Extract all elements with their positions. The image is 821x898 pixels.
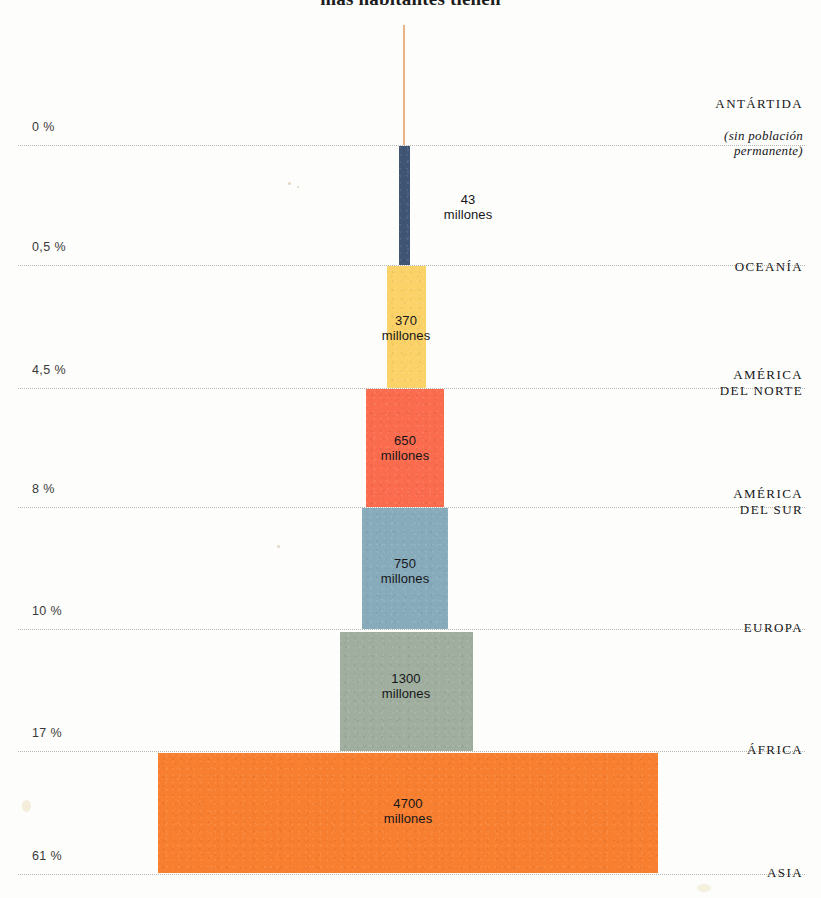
continent-name: AMÉRICA DEL SUR xyxy=(733,486,803,517)
bar-value-number: 4700 xyxy=(358,796,458,811)
continent-label-europa: EUROPA xyxy=(725,604,803,652)
continent-name: ÁFRICA xyxy=(747,742,803,757)
bar-value-europa: 750 millones xyxy=(355,556,455,587)
continent-label-antartida: ANTÁRTIDA (sin población permanente) xyxy=(697,80,803,191)
bar-value-unit: millones xyxy=(355,448,455,463)
axis-label-45pct: 4,5 % xyxy=(32,363,66,377)
antarctica-stem-line xyxy=(403,25,405,145)
bar-value-unit: millones xyxy=(356,686,456,701)
bar-value-number: 650 xyxy=(355,433,455,448)
bar-oceania[interactable] xyxy=(399,146,410,265)
population-pyramid-chart: más habitantes tienen 0 % 0,5 % 4,5 % 8 … xyxy=(0,0,821,898)
bar-value-africa: 1300 millones xyxy=(356,671,456,702)
paper-speck xyxy=(22,800,31,812)
continent-name: AMÉRICA DEL NORTE xyxy=(720,367,803,398)
axis-label-17pct: 17 % xyxy=(32,726,62,740)
continent-label-oceania: OCEANÍA xyxy=(716,243,803,291)
paper-speck xyxy=(297,186,299,188)
continent-name: EUROPA xyxy=(744,620,803,635)
continent-name: ANTÁRTIDA xyxy=(715,96,803,111)
bar-value-asia: 4700 millones xyxy=(358,796,458,827)
bar-value-america-del-norte: 370 millones xyxy=(356,313,456,344)
paper-speck xyxy=(277,545,280,548)
page-title: más habitantes tienen xyxy=(0,0,821,10)
continent-label-america-del-sur: AMÉRICA DEL SUR xyxy=(715,470,803,533)
gridline-10pct xyxy=(18,629,805,630)
continent-name: OCEANÍA xyxy=(735,259,803,274)
axis-label-0pct: 0 % xyxy=(32,120,55,134)
gridline-61pct xyxy=(18,874,805,875)
bar-value-number: 43 xyxy=(418,192,518,207)
paper-speck xyxy=(288,182,291,185)
bar-texture xyxy=(399,146,410,265)
bar-value-unit: millones xyxy=(418,207,518,222)
axis-label-61pct: 61 % xyxy=(32,849,62,863)
bar-value-number: 370 xyxy=(356,313,456,328)
bar-value-unit: millones xyxy=(356,328,456,343)
continent-label-america-del-norte: AMÉRICA DEL NORTE xyxy=(715,351,803,414)
bar-value-unit: millones xyxy=(355,571,455,586)
bar-value-unit: millones xyxy=(358,811,458,826)
bar-value-number: 750 xyxy=(355,556,455,571)
continent-label-africa: ÁFRICA xyxy=(728,726,803,774)
axis-label-10pct: 10 % xyxy=(32,604,62,618)
bar-value-america-del-sur: 650 millones xyxy=(355,433,455,464)
paper-speck xyxy=(697,884,711,892)
continent-label-asia: ASIA xyxy=(749,849,803,897)
gridline-17pct xyxy=(18,751,805,752)
axis-label-05pct: 0,5 % xyxy=(32,240,66,254)
bar-value-oceania: 43 millones xyxy=(418,192,518,223)
gridline-0pct xyxy=(18,145,805,146)
axis-label-8pct: 8 % xyxy=(32,482,55,496)
bar-value-number: 1300 xyxy=(356,671,456,686)
continent-note: (sin población permanente) xyxy=(697,128,803,160)
continent-name: ASIA xyxy=(767,865,803,880)
